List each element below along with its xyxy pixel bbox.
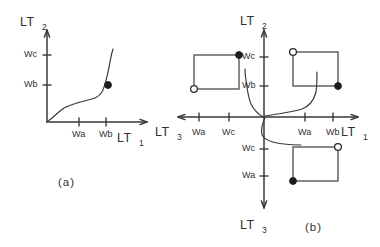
vertical-tick-label-wc-up: Wc	[242, 51, 255, 61]
panel-b-branch-quadrant-4	[262, 118, 301, 145]
horizontal-tick-label-wa-right: Wa	[298, 127, 311, 137]
lower-right-cycle	[290, 144, 342, 185]
x-tick-label-wb: Wb	[99, 129, 113, 139]
axis-down-label-sub: 3	[262, 225, 267, 235]
axis-right-label-sub: 1	[363, 132, 368, 142]
panel-a-filled-point	[105, 82, 112, 89]
panel-b-axis-label-up: LT 2	[240, 14, 267, 31]
y-axis-label-sub: 2	[42, 22, 47, 32]
x-tick-label-wa: Wa	[72, 129, 85, 139]
horizontal-tick-label-wc-left: Wc	[222, 127, 235, 137]
panel-a-caption: (a)	[58, 176, 75, 188]
panel-a-x-axis	[47, 119, 147, 124]
lower-right-cycle-open-marker	[335, 144, 342, 151]
lower-right-cycle-filled-marker	[290, 178, 297, 185]
y-tick-label-wc: Wc	[24, 49, 37, 59]
panel-b-caption: (b)	[305, 221, 322, 233]
panel-a-y-axis-label: LT 2	[20, 15, 47, 32]
upper-right-cycle-filled-marker	[335, 83, 342, 90]
panel-a-x-axis-label: LT 1	[117, 131, 144, 148]
panel-b-axis-label-right: LT 1	[341, 125, 368, 142]
panel-b-branch-quadrant-2	[245, 69, 263, 117]
horizontal-tick-label-wa-left: Wa	[192, 127, 205, 137]
panel-a-y-axis	[44, 30, 49, 122]
vertical-tick-label-wa-down: Wa	[242, 170, 255, 180]
upper-left-cycle	[191, 52, 243, 93]
figure-root: LT 2 LT 1 Wc Wb Wa Wb (a)	[0, 0, 380, 247]
lower-right-cycle-rect	[293, 147, 338, 181]
panel-b: LT 2 LT 3 LT 3 LT 1 Wc Wb Wc Wa Wa Wc Wa…	[155, 14, 368, 235]
panel-a: LT 2 LT 1 Wc Wb Wa Wb (a)	[20, 15, 147, 188]
upper-right-cycle	[290, 49, 342, 90]
y-tick-label-wb: Wb	[24, 79, 38, 89]
axis-down-label-base: LT	[240, 218, 254, 232]
panel-b-branch-quadrant-1	[265, 72, 317, 116]
x-axis-label-sub: 1	[139, 138, 144, 148]
axis-left-label-sub: 3	[177, 132, 182, 142]
y-axis-label-base: LT	[20, 15, 34, 29]
panel-a-hysteresis-curve	[48, 49, 113, 121]
axis-left-label-base: LT	[155, 125, 169, 139]
axis-up-label-sub: 2	[262, 21, 267, 31]
vertical-tick-label-wc-down: Wc	[242, 143, 255, 153]
technical-figure: LT 2 LT 1 Wc Wb Wa Wb (a)	[0, 0, 380, 247]
upper-left-cycle-open-marker	[191, 86, 198, 93]
horizontal-tick-label-wb-right: Wb	[326, 127, 340, 137]
panel-b-axis-label-down: LT 3	[240, 218, 267, 235]
upper-right-cycle-rect	[293, 52, 338, 86]
vertical-tick-label-wb-up: Wb	[242, 80, 256, 90]
upper-left-cycle-rect	[194, 55, 239, 89]
axis-up-label-base: LT	[240, 14, 254, 28]
panel-b-axis-label-left: LT 3	[155, 125, 182, 142]
axis-right-label-base: LT	[341, 125, 355, 139]
x-axis-label-base: LT	[117, 131, 131, 145]
upper-right-cycle-open-marker	[290, 49, 297, 56]
